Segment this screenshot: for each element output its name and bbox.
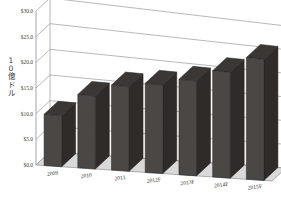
bars-layer bbox=[44, 44, 278, 180]
x-tick-label: 2011 bbox=[114, 174, 126, 181]
y-tick-label: $10.0 bbox=[21, 111, 33, 117]
bar-side-face bbox=[196, 68, 210, 176]
x-tick-label: 2015F bbox=[247, 183, 262, 191]
bar-front-face bbox=[44, 114, 62, 166]
bar-front-face bbox=[213, 71, 231, 179]
x-tick-label: 2010 bbox=[80, 172, 92, 180]
bar bbox=[78, 81, 110, 169]
x-tick-label: 2013F bbox=[180, 178, 195, 186]
gridline-tick bbox=[36, 0, 50, 11]
bar bbox=[213, 58, 245, 179]
y-axis-title-char-4: ル bbox=[3, 90, 19, 98]
y-tick-label: $0.0 bbox=[24, 162, 34, 168]
bar-front-face bbox=[179, 79, 197, 176]
y-tick-label: $5.0 bbox=[24, 136, 34, 142]
x-tick-label: 2012F bbox=[146, 176, 161, 184]
gridline-tick bbox=[36, 24, 50, 37]
bar-side-face bbox=[163, 72, 177, 174]
bar bbox=[112, 72, 144, 171]
bar bbox=[246, 44, 278, 180]
y-axis-labels: $0.0$5.0$10.0$15.0$20.0$25.0$30.0 bbox=[21, 8, 33, 168]
x-tick-label: 2009 bbox=[47, 169, 59, 177]
y-tick-label: $15.0 bbox=[21, 85, 33, 91]
gridline bbox=[50, 0, 281, 26]
gridline-tick bbox=[36, 49, 50, 62]
bar-side-face bbox=[264, 46, 278, 180]
bar-front-face bbox=[145, 83, 163, 173]
y-tick-label: $30.0 bbox=[21, 8, 33, 14]
x-tick-label: 2014F bbox=[214, 181, 229, 189]
bar bbox=[145, 70, 177, 173]
bar bbox=[44, 101, 76, 166]
chart-canvas: $0.0$5.0$10.0$15.0$20.0$25.0$30.0 200920… bbox=[0, 0, 281, 206]
y-tick-label: $20.0 bbox=[21, 59, 33, 65]
y-tick-label: $25.0 bbox=[21, 34, 33, 40]
gridline-tick bbox=[36, 75, 50, 88]
bar bbox=[179, 66, 211, 176]
bar-front-face bbox=[112, 85, 130, 171]
gridline bbox=[50, 24, 281, 50]
y-axis-title: 1 0 億 ド ル bbox=[3, 57, 19, 98]
bar-side-face bbox=[129, 74, 143, 172]
bar-side-face bbox=[95, 83, 109, 169]
bar-chart-figure: 1 0 億 ド ル $0.0$5.0$10.0$15.0$20.0$25.0$3… bbox=[0, 0, 281, 206]
bar-side-face bbox=[230, 59, 244, 178]
bar-front-face bbox=[246, 57, 264, 180]
bar-front-face bbox=[78, 94, 96, 169]
